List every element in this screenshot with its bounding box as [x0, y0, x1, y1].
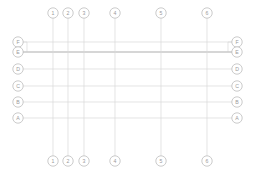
bubble-label: F — [16, 39, 19, 45]
column-bubble-top-2[interactable]: 2 — [63, 8, 73, 18]
row-bubble-right-f[interactable]: F — [232, 37, 242, 47]
column-bubble-bottom-5[interactable]: 5 — [156, 156, 166, 166]
row-bubble-right-d[interactable]: D — [232, 64, 242, 74]
grid-drawing-canvas: 123456 123456 FEDCBA FEDCBA — [0, 0, 255, 176]
column-bubble-top-3[interactable]: 3 — [79, 8, 89, 18]
row-bubble-left-d[interactable]: D — [13, 64, 23, 74]
bubble-label: 6 — [206, 10, 209, 16]
bubble-label: 5 — [160, 10, 163, 16]
column-bubble-top-1[interactable]: 1 — [48, 8, 58, 18]
row-bubble-right-e[interactable]: E — [232, 47, 242, 57]
row-bubble-right-c[interactable]: C — [232, 81, 242, 91]
bubble-label: B — [235, 99, 239, 105]
column-bubble-bottom-6[interactable]: 6 — [202, 156, 212, 166]
bubble-label: 2 — [67, 158, 70, 164]
bubble-label: F — [235, 39, 238, 45]
column-bubbles-top-group: 123456 — [48, 8, 212, 18]
column-bubble-bottom-4[interactable]: 4 — [110, 156, 120, 166]
column-gridlines-group — [53, 18, 207, 156]
bubble-label: 1 — [52, 10, 55, 16]
row-bubbles-left-group: FEDCBA — [13, 37, 23, 123]
bubble-label: E — [235, 49, 239, 55]
bubble-label: 4 — [114, 10, 117, 16]
row-bubble-left-c[interactable]: C — [13, 81, 23, 91]
column-bubble-bottom-1[interactable]: 1 — [48, 156, 58, 166]
bubble-label: 4 — [114, 158, 117, 164]
bubble-label: 1 — [52, 158, 55, 164]
bubble-label: C — [16, 83, 20, 89]
bubble-label: D — [235, 66, 239, 72]
grid-drawing-svg: 123456 123456 FEDCBA FEDCBA — [0, 0, 255, 176]
row-bubble-left-f[interactable]: F — [13, 37, 23, 47]
column-bubble-bottom-3[interactable]: 3 — [79, 156, 89, 166]
bubble-label: C — [235, 83, 239, 89]
row-stub-f-left — [23, 42, 27, 52]
bubble-label: E — [16, 49, 20, 55]
row-gridlines-group — [23, 42, 232, 118]
bubble-label: 6 — [206, 158, 209, 164]
row-stub-f-right — [228, 42, 232, 52]
bubble-label: A — [16, 115, 20, 121]
bubble-label: B — [16, 99, 20, 105]
row-bubble-right-a[interactable]: A — [232, 113, 242, 123]
column-bubble-top-5[interactable]: 5 — [156, 8, 166, 18]
bubble-label: 3 — [83, 158, 86, 164]
bubble-label: D — [16, 66, 20, 72]
row-bubbles-right-group: FEDCBA — [232, 37, 242, 123]
column-bubble-top-6[interactable]: 6 — [202, 8, 212, 18]
bubble-label: 3 — [83, 10, 86, 16]
column-bubbles-bottom-group: 123456 — [48, 156, 212, 166]
bubble-label: 5 — [160, 158, 163, 164]
row-bubble-left-a[interactable]: A — [13, 113, 23, 123]
bubble-label: 2 — [67, 10, 70, 16]
column-bubble-bottom-2[interactable]: 2 — [63, 156, 73, 166]
bubble-label: A — [235, 115, 239, 121]
row-bubble-right-b[interactable]: B — [232, 97, 242, 107]
row-bubble-left-b[interactable]: B — [13, 97, 23, 107]
column-bubble-top-4[interactable]: 4 — [110, 8, 120, 18]
row-bubble-left-e[interactable]: E — [13, 47, 23, 57]
